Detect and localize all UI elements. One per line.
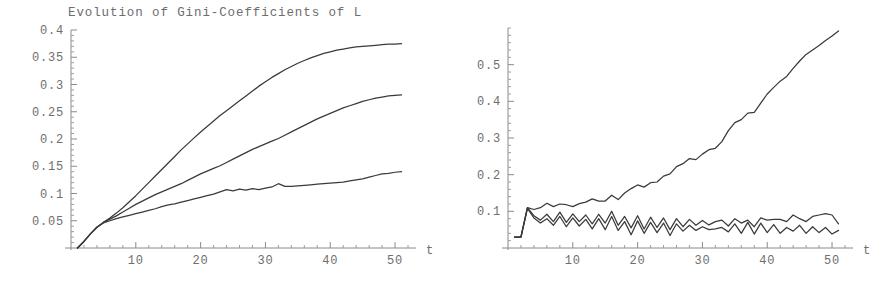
y-tick-label: 0.5 <box>477 59 501 73</box>
x-tick-label: 40 <box>759 254 775 268</box>
series-line-upper <box>77 44 401 248</box>
x-tick-label: 30 <box>694 254 710 268</box>
x-tick-label: 50 <box>387 254 403 268</box>
x-tick-label: 50 <box>824 254 840 268</box>
plot-area-left: 10203040500.050.10.150.20.250.30.350.4t <box>0 0 445 281</box>
x-tick-label: 20 <box>630 254 646 268</box>
chart-panel-left: Evolution of Gini-Coefficients of L 1020… <box>0 0 445 281</box>
y-tick-label: 0.1 <box>477 205 501 219</box>
series-line-middle <box>77 95 401 248</box>
x-tick-label: 10 <box>128 254 144 268</box>
series-line-rising <box>514 31 838 237</box>
figure-container: Evolution of Gini-Coefficients of L 1020… <box>0 0 890 281</box>
y-tick-label: 0.35 <box>32 51 64 65</box>
y-tick-label: 0.05 <box>32 215 64 229</box>
x-axis-name: t <box>426 244 433 258</box>
x-tick-label: 40 <box>322 254 338 268</box>
y-tick-label: 0.3 <box>40 79 64 93</box>
y-tick-label: 0.2 <box>40 133 64 147</box>
plot-area-right: 10203040500.10.20.30.40.5t <box>445 0 890 281</box>
y-tick-label: 0.4 <box>477 95 501 109</box>
x-tick-label: 10 <box>565 254 581 268</box>
y-tick-label: 0.2 <box>477 169 501 183</box>
y-tick-label: 0.3 <box>477 132 501 146</box>
y-tick-label: 0.4 <box>40 24 64 38</box>
y-tick-label: 0.1 <box>40 188 64 202</box>
x-tick-label: 20 <box>193 254 209 268</box>
chart-panel-right: Evolution of Gini-Coefficients of Y / L … <box>445 0 890 281</box>
y-tick-label: 0.15 <box>32 160 64 174</box>
x-tick-label: 30 <box>257 254 273 268</box>
x-axis-name: t <box>863 244 870 258</box>
series-line-oscillating-b <box>514 208 838 237</box>
y-tick-label: 0.25 <box>32 106 64 120</box>
